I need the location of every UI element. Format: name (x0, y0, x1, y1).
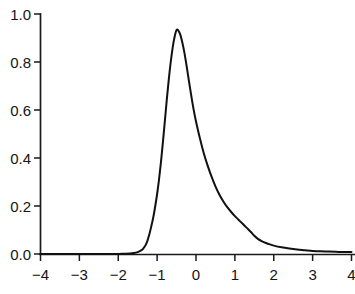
x-tick-label: 2 (270, 266, 278, 283)
y-tick-label: 0.6 (10, 102, 31, 119)
x-tick-label: 4 (347, 266, 355, 283)
x-tick-label: −3 (71, 266, 88, 283)
x-tick-label: 1 (231, 266, 239, 283)
x-axis-group: −4−3−2−101234 (32, 255, 355, 284)
x-axis-tick-labels: −4−3−2−101234 (32, 266, 355, 283)
y-tick-label: 0.4 (10, 150, 31, 167)
data-series-group (41, 30, 352, 254)
y-tick-label: 1.0 (10, 6, 31, 23)
chart-figure: 0.00.20.40.60.81.0 −4−3−2−101234 (0, 0, 355, 294)
x-axis-ticks (41, 255, 352, 262)
y-tick-label: 0.8 (10, 54, 31, 71)
y-axis-group: 0.00.20.40.60.81.0 (10, 6, 40, 263)
y-tick-label: 0.0 (10, 246, 31, 263)
y-tick-label: 0.2 (10, 198, 31, 215)
x-tick-label: −4 (32, 266, 49, 283)
x-tick-label: −2 (110, 266, 127, 283)
y-axis-tick-labels: 0.00.20.40.60.81.0 (10, 6, 31, 263)
y-axis-ticks (34, 14, 41, 254)
x-tick-label: −1 (149, 266, 166, 283)
density-plot: 0.00.20.40.60.81.0 −4−3−2−101234 (0, 0, 355, 294)
x-tick-label: 3 (308, 266, 316, 283)
x-tick-label: 0 (192, 266, 200, 283)
density-curve (41, 30, 352, 254)
